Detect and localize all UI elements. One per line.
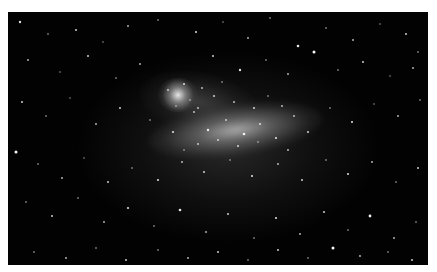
star (95, 247, 97, 249)
star (61, 177, 63, 179)
star (347, 173, 349, 175)
star (213, 95, 215, 97)
star (277, 249, 279, 251)
star (233, 101, 235, 103)
star (373, 103, 374, 104)
star (411, 259, 413, 261)
star (131, 167, 133, 169)
star (293, 115, 295, 117)
star (179, 209, 182, 212)
star (221, 81, 223, 83)
star (281, 105, 283, 107)
star (297, 45, 300, 48)
star (369, 215, 372, 218)
star (77, 197, 79, 199)
star (217, 139, 219, 141)
star (197, 107, 199, 109)
star (265, 59, 267, 61)
star (299, 233, 301, 235)
star (269, 17, 271, 19)
star (237, 145, 239, 147)
star (27, 59, 29, 61)
galaxy-photo (8, 12, 428, 265)
star (59, 71, 60, 72)
star (393, 237, 395, 239)
star (417, 51, 419, 53)
star (183, 149, 185, 151)
star (337, 69, 339, 71)
star (83, 157, 84, 158)
star (405, 33, 407, 35)
star (251, 175, 253, 177)
star (239, 69, 241, 71)
star (267, 95, 269, 97)
star (313, 51, 316, 54)
star (87, 55, 89, 57)
star (247, 37, 249, 39)
star (197, 143, 199, 145)
star (102, 41, 103, 42)
star (259, 123, 261, 125)
star (229, 159, 231, 161)
star (153, 225, 155, 227)
star (301, 179, 303, 181)
star (19, 21, 21, 23)
star (25, 201, 27, 203)
star (125, 259, 127, 261)
star (307, 131, 309, 133)
star (207, 129, 209, 131)
star (227, 213, 229, 215)
star (65, 257, 67, 259)
star (115, 77, 117, 79)
star (51, 215, 53, 217)
star (212, 55, 214, 57)
star (107, 181, 109, 183)
star (95, 123, 97, 125)
star (183, 83, 185, 85)
star (415, 221, 417, 223)
star (387, 251, 389, 253)
star (201, 87, 203, 89)
star (103, 221, 105, 223)
star (362, 61, 364, 63)
star (21, 101, 23, 103)
star (45, 115, 47, 117)
star (157, 179, 159, 181)
star (253, 107, 255, 109)
star (119, 107, 121, 109)
star (275, 137, 277, 139)
star (175, 105, 177, 107)
star (189, 99, 191, 101)
star (127, 207, 129, 209)
star (277, 163, 279, 165)
star (325, 27, 327, 29)
star (225, 119, 227, 121)
star (332, 247, 335, 250)
star-field (8, 12, 428, 265)
star (69, 97, 70, 98)
star (243, 133, 246, 136)
star (379, 23, 380, 24)
star (217, 251, 219, 253)
star (389, 75, 390, 76)
star (287, 73, 289, 75)
star (127, 25, 129, 27)
star (203, 171, 205, 173)
star (222, 21, 223, 22)
star (417, 167, 419, 169)
star (247, 259, 249, 261)
star (397, 115, 399, 117)
star (323, 211, 325, 213)
star (167, 89, 169, 91)
star (307, 257, 309, 259)
star (287, 149, 289, 151)
star (257, 141, 259, 143)
star (157, 249, 159, 251)
star (371, 161, 373, 163)
star (47, 33, 49, 35)
star (253, 237, 255, 239)
star (75, 29, 77, 31)
star (329, 107, 331, 109)
star (157, 19, 159, 21)
star (139, 63, 141, 65)
